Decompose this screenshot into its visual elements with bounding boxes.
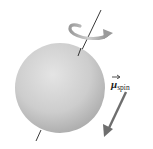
- spin-moment-label: μspin: [111, 78, 130, 92]
- spin-subscript: spin: [117, 83, 130, 92]
- spin-diagram: [0, 0, 153, 149]
- spin-moment-arrow-shaft: [109, 92, 126, 128]
- rotation-arrow-icon: [70, 25, 108, 39]
- rotation-axis-bottom: [36, 130, 41, 141]
- sphere: [15, 43, 105, 133]
- spin-moment-arrowhead-icon: [103, 124, 113, 137]
- vector-arrow-icon: [111, 74, 121, 79]
- rotation-arrowhead-icon: [103, 29, 113, 39]
